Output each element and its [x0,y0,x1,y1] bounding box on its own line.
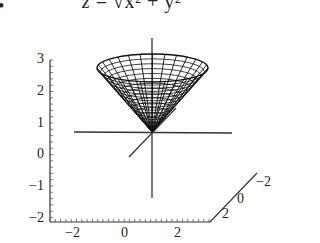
x-tick-label: 2 [174,226,181,240]
z-tick-label: 0 [37,147,44,161]
z-tick-label: 1 [37,116,44,130]
x-tick-label: 0 [121,226,128,240]
z-tick-label: −2 [29,211,44,225]
y-tick-label: 0 [237,192,244,206]
z-tick-label: 2 [37,84,44,98]
origin-axes [74,38,232,198]
tick-marks [50,60,209,222]
x-tick-label: −2 [65,226,80,240]
y-tick-label: −2 [256,175,271,189]
z-tick-label: −1 [29,179,44,193]
cone-mesh [97,54,208,132]
y-tick-label: 2 [222,207,229,221]
plot-box-axes [50,60,257,222]
z-tick-label: 3 [37,52,44,66]
